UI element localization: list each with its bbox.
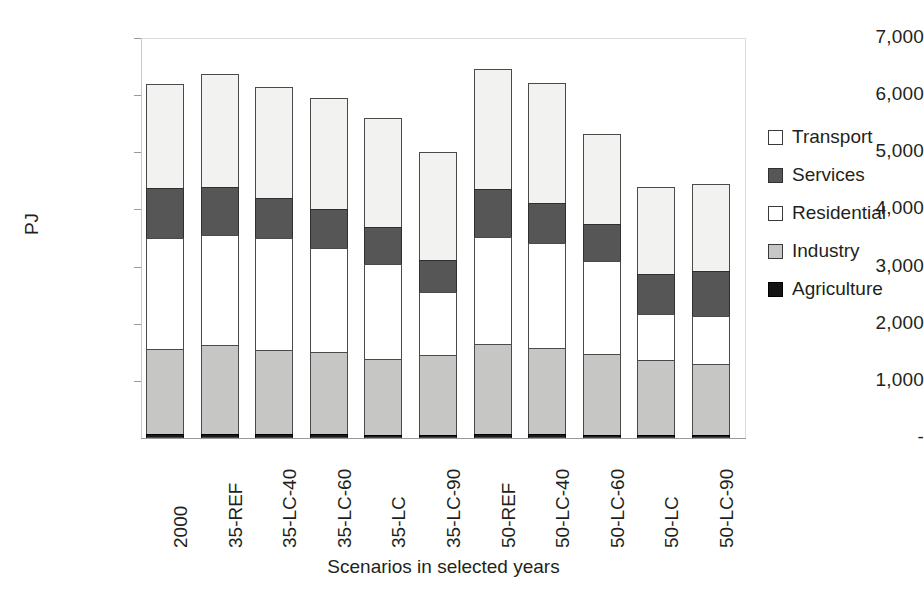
bar-column[interactable] [255,87,293,438]
bar-stack [419,152,457,438]
legend-item-residential[interactable]: Residential [768,194,918,232]
bar-segment-services[interactable] [528,203,566,243]
legend-swatch-icon [768,282,783,297]
y-axis-label-wrapper: PJ [12,196,52,256]
bar-segment-residential[interactable] [474,237,512,344]
bar-segment-agriculture[interactable] [146,434,184,438]
bar-segment-residential[interactable] [201,235,239,345]
bar-segment-transport[interactable] [201,74,239,187]
bar-column[interactable] [528,83,566,438]
x-tick-label: 35-LC-60 [319,444,339,550]
x-tick-label-text: 35-LC-60 [335,469,355,548]
bar-segment-residential[interactable] [583,261,621,354]
bar-segment-services[interactable] [419,260,457,292]
bar-segment-transport[interactable] [255,87,293,198]
x-tick-label-text: 50-LC-40 [553,469,573,548]
x-tick-label: 35-LC-40 [264,444,284,550]
bar-segment-residential[interactable] [364,264,402,359]
bar-segment-agriculture[interactable] [583,435,621,438]
y-tick-label: 6,000 [798,84,924,103]
bar-segment-residential[interactable] [310,248,348,352]
x-tick-label-text: 50-LC [662,496,682,548]
bar-column[interactable] [637,187,675,438]
bar-segment-residential[interactable] [255,238,293,350]
bar-segment-agriculture[interactable] [692,435,730,438]
x-tick-label: 50-REF [483,444,503,550]
bar-segment-industry[interactable] [474,344,512,434]
bar-segment-residential[interactable] [692,316,730,365]
bars-layer [141,38,746,438]
x-tick-label-text: 50-LC-60 [608,469,628,548]
bar-column[interactable] [201,74,239,438]
bar-segment-industry[interactable] [146,349,184,434]
bar-segment-agriculture[interactable] [310,434,348,438]
bar-column[interactable] [692,184,730,438]
bar-segment-services[interactable] [310,209,348,247]
bar-segment-services[interactable] [255,198,293,238]
bar-segment-agriculture[interactable] [474,434,512,438]
bar-segment-agriculture[interactable] [419,435,457,438]
x-tick-label: 35-LC [373,444,393,550]
bar-stack [310,98,348,438]
legend-item-transport[interactable]: Transport [768,118,918,156]
bar-segment-services[interactable] [364,227,402,264]
bar-stack [201,74,239,438]
x-tick-label: 50-LC [646,444,666,550]
legend-swatch-icon [768,244,783,259]
bar-segment-transport[interactable] [528,83,566,204]
bar-segment-services[interactable] [146,188,184,238]
bar-stack [474,69,512,438]
bar-segment-agriculture[interactable] [201,434,239,438]
y-tick-label: 1,000 [798,370,924,389]
bar-segment-transport[interactable] [583,134,621,224]
y-tick-label: 2,000 [798,313,924,332]
bar-segment-industry[interactable] [310,352,348,434]
bar-segment-industry[interactable] [255,350,293,434]
bar-column[interactable] [474,69,512,438]
x-tick-label-text: 50-LC-90 [717,469,737,548]
x-axis-title: Scenarios in selected years [141,556,746,578]
bar-segment-transport[interactable] [146,84,184,188]
bar-segment-industry[interactable] [419,355,457,434]
bar-stack [255,87,293,438]
bar-segment-transport[interactable] [364,118,402,227]
bar-segment-transport[interactable] [637,187,675,274]
bar-column[interactable] [419,152,457,438]
bar-segment-services[interactable] [201,187,239,236]
bar-stack [146,84,184,438]
bar-column[interactable] [364,118,402,438]
bar-segment-industry[interactable] [583,354,621,435]
legend-item-services[interactable]: Services [768,156,918,194]
legend-item-agriculture[interactable]: Agriculture [768,270,918,308]
x-tick-label-text: 35-LC [389,496,409,548]
bar-segment-transport[interactable] [474,69,512,188]
bar-segment-transport[interactable] [310,98,348,209]
bar-segment-services[interactable] [474,189,512,237]
x-tick-label-text: 50-REF [499,483,519,548]
bar-segment-industry[interactable] [364,359,402,435]
bar-segment-transport[interactable] [419,152,457,259]
bar-segment-residential[interactable] [419,292,457,355]
bar-segment-residential[interactable] [528,243,566,348]
legend-item-industry[interactable]: Industry [768,232,918,270]
bar-segment-services[interactable] [637,274,675,314]
bar-segment-agriculture[interactable] [637,435,675,438]
bar-segment-services[interactable] [583,224,621,261]
bar-segment-transport[interactable] [692,184,730,271]
bar-column[interactable] [310,98,348,438]
bar-column[interactable] [583,134,621,438]
bar-stack [583,134,621,438]
bar-column[interactable] [146,84,184,438]
bar-segment-residential[interactable] [146,238,184,349]
bar-segment-residential[interactable] [637,314,675,360]
bar-segment-services[interactable] [692,271,730,316]
y-tick-label: 7,000 [798,27,924,46]
bar-segment-agriculture[interactable] [255,434,293,438]
bar-segment-industry[interactable] [692,364,730,434]
bar-segment-agriculture[interactable] [364,435,402,438]
bar-segment-agriculture[interactable] [528,434,566,438]
bar-segment-industry[interactable] [528,348,566,434]
bar-segment-industry[interactable] [201,345,239,434]
bar-segment-industry[interactable] [637,360,675,434]
x-axis-baseline [141,438,746,439]
